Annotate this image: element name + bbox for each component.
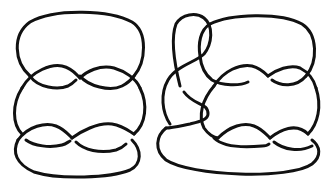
left-twist2-upper-b (72, 124, 134, 138)
right-twist2-upper (218, 125, 270, 139)
left-middle-left-side (15, 88, 23, 134)
right-bottom-loop (158, 128, 319, 174)
left-top-loop (17, 12, 143, 76)
right-middle-right-side (308, 88, 319, 134)
left-twist1-strand-a (30, 76, 76, 88)
knot-figure (0, 0, 330, 190)
left-twist1-over-b (80, 67, 140, 88)
right-twist2-lower-b (274, 142, 312, 149)
right-twist2-lower (214, 138, 269, 147)
right-middle-left-inner (201, 86, 218, 138)
right-knot-diagram (158, 15, 319, 175)
left-twist2-upper (18, 125, 72, 140)
left-knot-diagram (15, 12, 145, 177)
right-twist1-under (272, 76, 306, 85)
knot-diagrams-svg (0, 0, 330, 190)
left-middle-right-side (134, 88, 145, 134)
left-twist2-lower-b (76, 142, 126, 152)
right-twist2-upper-b (270, 128, 308, 138)
left-twist2-lower-a (26, 140, 70, 146)
left-twist1-strand-b (80, 76, 134, 88)
